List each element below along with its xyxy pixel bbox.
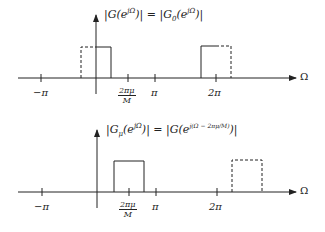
diagram-canvas xyxy=(0,0,325,232)
top-baseband-solid xyxy=(96,47,111,78)
bottom-plot xyxy=(18,130,296,208)
title-part: |G(e xyxy=(104,8,127,21)
bottom-axis-label-omega: Ω xyxy=(300,185,308,196)
top-tick-label-pi: π xyxy=(151,87,158,98)
title-part: )| = |G(e xyxy=(142,123,190,136)
title-part: )| xyxy=(195,8,203,21)
top-image-dashed xyxy=(216,46,231,78)
bottom-shifted-box xyxy=(114,161,144,192)
top-tick-label-neg-pi: −π xyxy=(33,87,48,98)
bottom-plot-title: |Gμ(ejΩ)| = |G(ej(Ω − 2πμ/M))| xyxy=(106,122,238,138)
title-sup: jΩ xyxy=(134,122,142,130)
title-part: )| = |G xyxy=(135,8,172,21)
top-axis-label-omega: Ω xyxy=(300,71,308,82)
bottom-tick-label-2pi: 2π xyxy=(209,201,222,212)
frac-denominator: M xyxy=(119,210,137,219)
top-plot-title: |G(ejΩ)| = |G0(ejΩ)| xyxy=(104,7,203,23)
title-part: |G xyxy=(106,123,119,136)
frac-denominator: M xyxy=(118,96,136,105)
bottom-tick-label-2pimu-m: 2πμ M xyxy=(119,200,137,219)
bottom-image-dashed xyxy=(232,160,262,192)
top-tick-label-2pimu-m: 2πμ M xyxy=(118,86,136,105)
bottom-tick-label-pi: π xyxy=(152,201,159,212)
top-baseband-dashed xyxy=(81,47,96,78)
top-tick-label-2pi: 2π xyxy=(208,87,221,98)
top-image-solid xyxy=(201,46,216,78)
frac-numerator: 2πμ xyxy=(119,200,137,210)
frac-numerator: 2πμ xyxy=(118,86,136,96)
title-sup: j(Ω − 2πμ/M) xyxy=(189,122,229,129)
title-part: (e xyxy=(123,123,134,136)
title-part: )| xyxy=(230,123,238,136)
top-plot xyxy=(18,15,296,94)
bottom-tick-label-neg-pi: −π xyxy=(34,201,49,212)
title-part: (e xyxy=(176,8,187,21)
